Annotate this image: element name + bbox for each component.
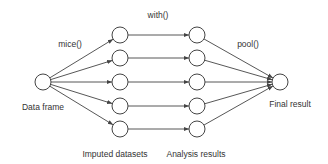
label-analysis-results: Analysis results [166,150,225,159]
edge-mice-2 [51,60,113,79]
node-imputed-dataset-4 [112,98,128,114]
edge-mice-4 [51,84,113,103]
edge-pool-4 [205,84,273,104]
edge-pool-2 [205,60,273,80]
node-analysis-result-2 [189,50,205,66]
node-imputed-dataset-3 [112,74,128,90]
edges [50,35,273,129]
label-pool-step: pool() [237,40,259,49]
edge-pool-5 [204,86,273,125]
node-data-frame [35,74,51,90]
node-analysis-result-3 [189,74,205,90]
mice-workflow-diagram [0,0,328,164]
label-data-frame: Data frame [22,103,64,112]
node-final-result [272,74,288,90]
node-imputed-dataset-2 [112,50,128,66]
label-final-result: Final result [269,100,311,109]
node-analysis-result-4 [189,98,205,114]
node-analysis-result-1 [189,27,205,43]
node-imputed-dataset-1 [112,27,128,43]
label-mice-step: mice() [58,40,82,49]
node-imputed-dataset-5 [112,121,128,137]
label-with-step: with() [148,11,169,20]
label-imputed-datasets: Imputed datasets [82,150,147,159]
node-analysis-result-5 [189,121,205,137]
